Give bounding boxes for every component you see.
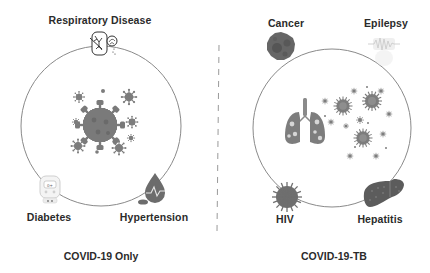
- condition-label-epilepsy: Epilepsy: [364, 17, 408, 29]
- respiratory-lungs-icon: [90, 32, 117, 55]
- panel-divider: [217, 45, 219, 232]
- diagram-graphics: 0+: [0, 0, 430, 273]
- coronavirus-cluster-icon: [322, 86, 393, 159]
- coronavirus-cluster-icon: [70, 89, 138, 156]
- svg-text:0+: 0+: [47, 183, 53, 188]
- condition-label-respiratory-disease: Respiratory Disease: [49, 14, 152, 26]
- liver-icon: [364, 179, 404, 207]
- condition-label-hiv: HIV: [276, 213, 294, 225]
- condition-label-hypertension: Hypertension: [120, 211, 188, 223]
- panel-caption-covid19-only: COVID-19 Only: [64, 250, 139, 262]
- cancer-cell-icon: [267, 32, 295, 60]
- tb-lungs-icon: [285, 98, 325, 144]
- condition-label-cancer: Cancer: [268, 17, 304, 29]
- epilepsy-brainwave-icon: [368, 38, 400, 66]
- comorbidity-comparison-diagram: 0+: [0, 0, 430, 273]
- blood-drop-icon: [138, 173, 165, 205]
- condition-label-hepatitis: Hepatitis: [357, 213, 402, 225]
- panel-caption-covid19-tb: COVID-19-TB: [301, 250, 367, 262]
- glucose-meter-icon: 0+: [40, 176, 60, 203]
- condition-label-diabetes: Diabetes: [27, 211, 72, 223]
- hiv-virus-icon: [272, 182, 302, 212]
